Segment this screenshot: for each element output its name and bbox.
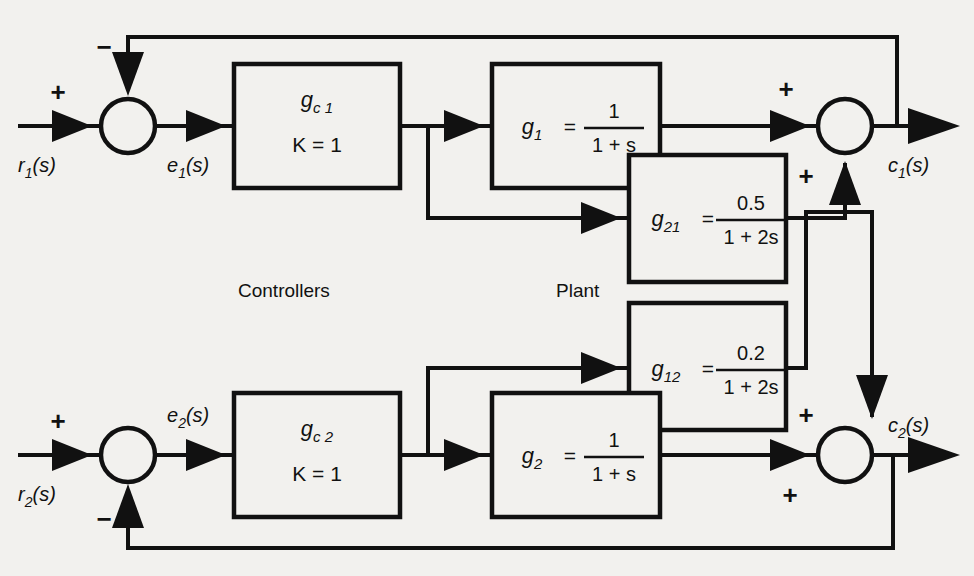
arrow-r1-input	[52, 110, 92, 142]
label-e2: e2(s)	[167, 404, 209, 431]
block-g2-numerator: 1	[608, 429, 619, 451]
sign-sum4-plus-top: +	[798, 400, 813, 430]
arrow-into-g1	[444, 110, 484, 142]
summing-junction-3[interactable]	[818, 99, 872, 153]
block-g12-denominator: 1 + 2s	[723, 376, 778, 398]
sign-sum4-plus-left: +	[782, 480, 797, 510]
label-c2: c2(s)	[888, 414, 929, 441]
block-g2-equals: =	[564, 444, 576, 467]
arrow-feedback-c2-into-sum2	[112, 484, 144, 528]
arrow-c2-output	[908, 437, 960, 473]
control-block-diagram: + − + − + + + + r1(s) e1(s) c1(s) r2(s) …	[0, 0, 974, 576]
block-g12-equals: =	[702, 357, 714, 380]
block-g21-numerator: 0.5	[737, 192, 765, 214]
arrow-g2-into-sum4	[770, 439, 810, 471]
arrow-e2-into-gc2	[186, 439, 226, 471]
sign-sum2-plus: +	[50, 406, 65, 436]
sign-sum1-plus: +	[50, 77, 65, 107]
arrow-e1-into-gc1	[186, 110, 226, 142]
arrow-g21-into-sum3	[829, 161, 861, 205]
group-label-plant: Plant	[556, 280, 600, 301]
block-g1-denominator: 1 + s	[592, 134, 636, 156]
sign-sum2-minus: −	[96, 504, 111, 534]
arrow-g1-into-sum3	[770, 110, 810, 142]
summing-junction-2[interactable]	[101, 428, 155, 482]
block-g12-numerator: 0.2	[737, 342, 765, 364]
block-g1-numerator: 1	[608, 100, 619, 122]
block-gc2[interactable]	[234, 393, 400, 517]
arrow-feedback-c1-into-sum1	[112, 52, 144, 96]
label-e1: e1(s)	[167, 154, 209, 181]
block-g21-denominator: 1 + 2s	[723, 226, 778, 248]
sign-sum3-plus-left: +	[778, 74, 793, 104]
summing-junction-1[interactable]	[101, 99, 155, 153]
block-gc1[interactable]	[234, 64, 400, 188]
wire-g12-to-sum4	[786, 212, 872, 415]
block-gc2-gain: K = 1	[292, 462, 342, 485]
block-gc1-gain: K = 1	[292, 133, 342, 156]
arrow-into-g2	[444, 439, 484, 471]
arrow-c1-output	[908, 108, 960, 144]
label-c1: c1(s)	[888, 154, 929, 181]
group-label-controllers: Controllers	[238, 280, 330, 301]
block-diagram-canvas: + − + − + + + + r1(s) e1(s) c1(s) r2(s) …	[0, 0, 974, 576]
arrow-g12-into-sum4	[856, 375, 888, 419]
arrow-into-g21	[581, 202, 621, 234]
label-r2: r2(s)	[18, 483, 56, 510]
sign-sum3-plus-bottom: +	[798, 161, 813, 191]
block-g21-equals: =	[702, 207, 714, 230]
block-g1-equals: =	[564, 115, 576, 138]
label-r1: r1(s)	[18, 154, 56, 181]
arrow-into-g12	[581, 352, 621, 384]
arrow-r2-input	[52, 439, 92, 471]
sign-sum1-minus: −	[96, 32, 111, 62]
summing-junction-4[interactable]	[818, 428, 872, 482]
block-g2-denominator: 1 + s	[592, 463, 636, 485]
